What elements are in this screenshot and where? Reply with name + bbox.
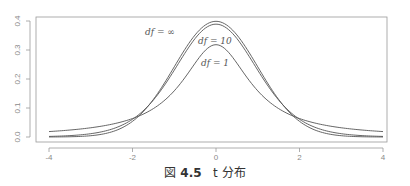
x-tick-labels: -4-2024: [45, 153, 385, 160]
caption-text: t 分布: [213, 166, 246, 180]
x-tick-label: -2: [129, 153, 137, 160]
caption-prefix: 図: [164, 166, 176, 180]
x-tick-label: -4: [45, 153, 53, 160]
y-tick-labels: 0.00.10.20.30.4: [13, 15, 22, 143]
x-tick-label: 2: [297, 153, 302, 160]
y-tick-label: 0.3: [13, 44, 22, 56]
y-axis: [26, 21, 30, 137]
y-tick-label: 0.2: [13, 73, 22, 85]
y-tick-label: 0.1: [13, 102, 22, 114]
label-df-inf: df = ∞: [145, 27, 175, 37]
x-axis: [49, 148, 383, 152]
t-distribution-chart: 0.00.10.20.30.4 -4-2024 df = ∞ df = 10 d…: [0, 0, 410, 160]
label-df-1: df = 1: [201, 58, 229, 68]
figure-caption: 図 4.5 t 分布: [0, 163, 410, 180]
y-tick-label: 0.4: [13, 15, 22, 27]
x-tick-label: 0: [214, 153, 219, 160]
caption-number: 4.5: [180, 166, 201, 180]
label-df-10: df = 10: [198, 36, 232, 46]
x-tick-label: 4: [381, 153, 386, 160]
y-tick-label: 0.0: [13, 131, 22, 143]
